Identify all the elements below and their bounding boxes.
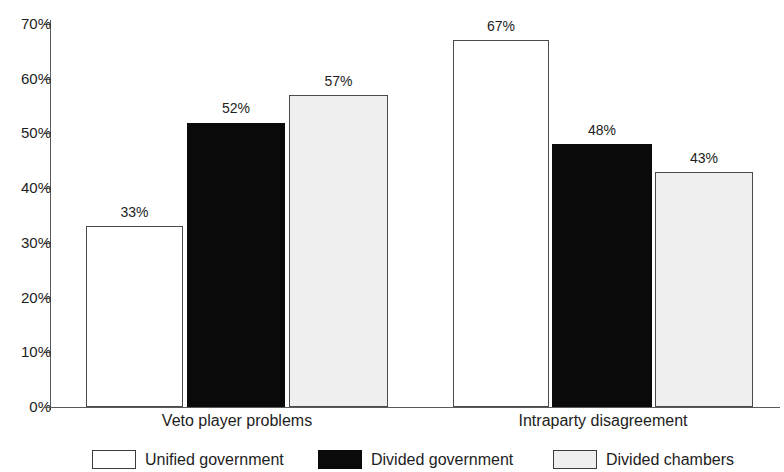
bar-value-label: 33%: [120, 205, 148, 219]
bar-value-label: 43%: [690, 151, 718, 165]
x-axis-category-label: Veto player problems: [162, 411, 312, 430]
bar-value-label: 48%: [588, 123, 616, 137]
legend-swatch-icon: [318, 450, 362, 469]
bar: [86, 226, 183, 407]
legend-swatch-icon: [92, 450, 136, 469]
bar-value-label: 67%: [487, 19, 515, 33]
bar-chart: 70%60%50%40%30%20%10%0% 33%52%57%67%48%4…: [0, 0, 784, 472]
legend-swatch-icon: [553, 450, 597, 469]
chart-legend: Unified governmentDivided governmentDivi…: [0, 446, 784, 472]
bar-value-label: 52%: [222, 101, 250, 115]
x-axis-category-label: Intraparty disagreement: [519, 411, 688, 430]
x-axis-line: [44, 407, 780, 408]
bar: [552, 144, 652, 407]
legend-item-label: Divided government: [371, 450, 513, 469]
bar: [453, 40, 549, 407]
bars-layer: 33%52%57%67%48%43%: [0, 0, 784, 407]
legend-item-label: Divided chambers: [606, 450, 734, 469]
legend-item[interactable]: Unified government: [92, 446, 284, 472]
legend-item[interactable]: Divided government: [318, 446, 513, 472]
legend-item[interactable]: Divided chambers: [553, 446, 734, 472]
bar: [187, 123, 285, 408]
legend-item-label: Unified government: [145, 450, 284, 469]
bar: [289, 95, 388, 407]
bar-value-label: 57%: [324, 74, 352, 88]
bar: [655, 172, 753, 407]
